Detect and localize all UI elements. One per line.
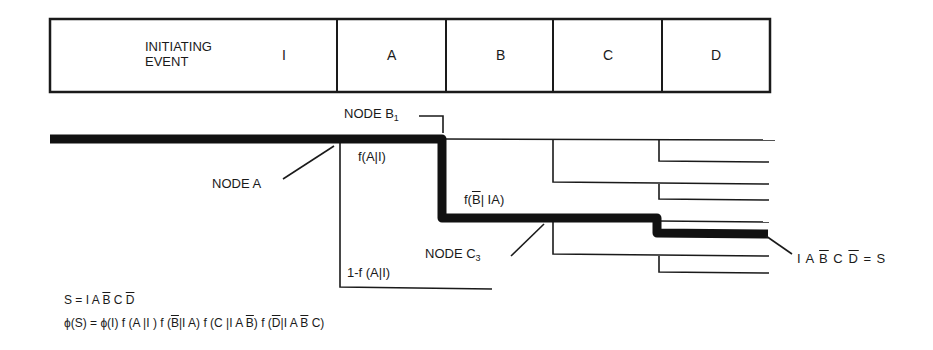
- f-bbar-suffix: | IA): [481, 192, 505, 207]
- highlighted-sequence-path: [50, 139, 768, 234]
- eq1-dbar: D: [126, 293, 135, 307]
- node-c3-subscript: 3: [476, 253, 481, 263]
- eq2-part2: |I A) f (C |I A: [179, 316, 246, 330]
- initiating-label-line1: INITIATING: [145, 39, 212, 54]
- header-column-d: D: [711, 48, 721, 62]
- equation-s-definition: S = I A B C D: [64, 293, 134, 307]
- equation-phi-s: ϕ(S) = ϕ(I) f (A |I ) f (B|I A) f (C |I …: [64, 316, 324, 330]
- eq2-bbar2: B: [246, 316, 254, 330]
- seq-bbar: B: [819, 251, 829, 266]
- header-initiating-event-label: INITIATING EVENT: [145, 39, 212, 69]
- f-bbar-b: B: [472, 192, 481, 207]
- seq-part2: C: [829, 251, 849, 266]
- eq2-bbar1: B: [171, 316, 179, 330]
- eq2-part5: C): [308, 316, 324, 330]
- branch-label-f-a-given-i: f(A|I): [358, 150, 386, 164]
- branch-label-f-bbar-given-ia: f(B| IA): [464, 193, 504, 207]
- f-bbar-prefix: f(: [464, 192, 472, 207]
- node-b1-label: NODE B1: [344, 107, 399, 125]
- node-b1-text: NODE B: [344, 106, 394, 121]
- eq1-part1: S = I A: [64, 293, 102, 307]
- node-c3-label: NODE C3: [425, 247, 481, 265]
- header-column-a: A: [387, 48, 396, 62]
- eq1-part2: C: [110, 293, 125, 307]
- eq2-dbar: D: [272, 316, 281, 330]
- seq-part3: = S: [859, 251, 887, 266]
- initiating-label-line2: EVENT: [145, 54, 188, 69]
- event-tree-diagram: [0, 0, 933, 350]
- eq2-part4: |I A: [281, 316, 301, 330]
- eq2-part1: ϕ(S) = ϕ(I) f (A |I ) f (: [64, 316, 171, 330]
- seq-dbar: D: [848, 251, 858, 266]
- eq2-part3: ) f (: [254, 316, 272, 330]
- node-a-label: NODE A: [212, 177, 261, 191]
- node-b1-subscript: 1: [394, 113, 399, 123]
- header-column-i: I: [282, 48, 286, 62]
- header-column-c: C: [603, 48, 613, 62]
- branch-label-one-minus-f-a-given-i: 1-f (A|I): [347, 266, 390, 280]
- sequence-s-label: I A B C D = S: [797, 252, 886, 266]
- header-column-b: B: [496, 48, 505, 62]
- node-c3-text: NODE C: [425, 246, 476, 261]
- seq-part1: I A: [797, 251, 819, 266]
